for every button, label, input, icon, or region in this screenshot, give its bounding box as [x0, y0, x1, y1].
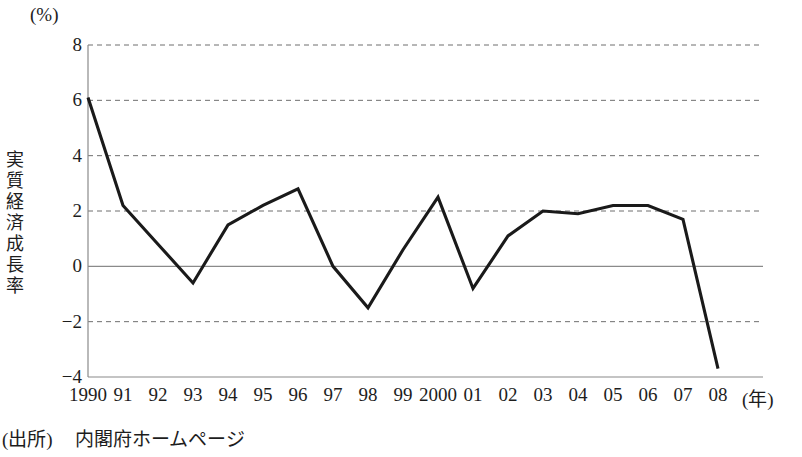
y-tick-label: 4: [36, 145, 82, 167]
x-tick-label: 08: [709, 384, 728, 406]
x-tick-label: 1990: [69, 384, 107, 406]
x-tick-label: 03: [534, 384, 553, 406]
x-tick-label: 05: [604, 384, 623, 406]
x-tick-label: 04: [569, 384, 588, 406]
x-tick-label: 92: [149, 384, 168, 406]
x-tick-label: 95: [254, 384, 273, 406]
x-tick-label: 99: [394, 384, 413, 406]
x-tick-label: 2000: [419, 384, 457, 406]
y-tick-label: −2: [36, 311, 82, 333]
source-label: (出所): [2, 429, 53, 450]
y-tick-label: 8: [36, 34, 82, 56]
y-tick-label: 2: [36, 200, 82, 222]
x-tick-label: 07: [674, 384, 693, 406]
x-axis-unit-label: (年): [742, 384, 774, 411]
chart-figure: (%) 実質経済成長率 86420−2−4 199091929394959697…: [0, 0, 802, 457]
x-tick-label: 97: [324, 384, 343, 406]
source-note: (出所)内閣府ホームページ: [2, 424, 245, 451]
data-series-line: [88, 98, 718, 369]
x-tick-label: 91: [114, 384, 133, 406]
x-tick-label: 02: [499, 384, 518, 406]
x-axis-tick-labels: 1990919293949596979899200001020304050607…: [0, 384, 802, 414]
line-chart-svg: [88, 45, 763, 377]
x-tick-label: 01: [464, 384, 483, 406]
series-polyline: [88, 98, 718, 369]
plot-area: [88, 45, 763, 377]
x-tick-label: 96: [289, 384, 308, 406]
x-tick-label: 06: [639, 384, 658, 406]
y-tick-label: 0: [36, 255, 82, 277]
x-tick-label: 93: [184, 384, 203, 406]
x-tick-label: 94: [219, 384, 238, 406]
source-text: 内閣府ホームページ: [75, 429, 245, 450]
x-tick-label: 98: [359, 384, 378, 406]
y-tick-label: 6: [36, 89, 82, 111]
